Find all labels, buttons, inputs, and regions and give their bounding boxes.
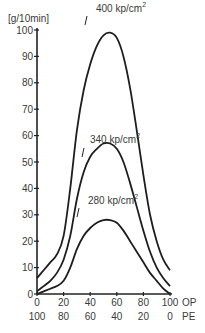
x-tick-label-pe: 60: [85, 311, 97, 322]
y-tick-label: 70: [22, 104, 34, 115]
series-annotation-label: 280 kp/cm2: [88, 193, 138, 206]
x-tick-label-pe: 20: [138, 311, 150, 322]
x-axis-label-pe: PE: [182, 311, 196, 322]
x-tick-label-op: 60: [111, 297, 123, 308]
x-tick-label-op: 0: [34, 297, 40, 308]
y-tick-label: 0: [27, 289, 33, 300]
y-axis-ticks: 0102030405060708090100: [16, 25, 39, 300]
x-tick-label-op: 100: [162, 297, 179, 308]
series-annotation-label: 340 kp/cm2: [90, 132, 140, 145]
x-axis-label-op: OP: [182, 297, 197, 308]
y-tick-label: 80: [22, 77, 34, 88]
series-annotation-label: 400 kp/cm2: [96, 1, 146, 14]
chart-canvas: 0102030405060708090100 01002080406060408…: [0, 0, 205, 333]
series-curve: [37, 33, 170, 279]
y-tick-label: 20: [22, 236, 34, 247]
y-tick-label: 40: [22, 183, 34, 194]
series-curve: [37, 220, 170, 294]
x-tick-label-op: 40: [85, 297, 97, 308]
series-curves: [37, 33, 170, 294]
x-tick-label-pe: 80: [58, 311, 70, 322]
y-tick-label: 60: [22, 130, 34, 141]
y-tick-label: 50: [22, 157, 34, 168]
x-axis-ticks: 010020804060604080201000: [29, 292, 179, 322]
y-tick-label: 90: [22, 51, 34, 62]
x-tick-label-pe: 100: [29, 311, 46, 322]
x-tick-label-pe: 0: [167, 311, 173, 322]
y-tick-label: 100: [16, 25, 33, 36]
y-axis-label: [g/10min]: [8, 13, 49, 24]
y-tick-label: 30: [22, 209, 34, 220]
x-tick-label-op: 80: [138, 297, 150, 308]
y-tick-label: 10: [22, 262, 34, 273]
x-tick-label-pe: 40: [111, 311, 123, 322]
x-tick-label-op: 20: [58, 297, 70, 308]
